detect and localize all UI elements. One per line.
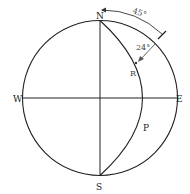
label-north: N [96, 11, 104, 21]
stereonet-diagram: N S E W P R 45° 24° [0, 0, 190, 194]
label-east: E [176, 94, 183, 104]
label-west: W [13, 94, 23, 104]
point-r-marker [135, 62, 137, 64]
strike-tick [158, 31, 166, 39]
label-point-r: R [130, 69, 137, 78]
label-plane-p: P [143, 123, 149, 133]
label-strike-angle: 45° [131, 6, 147, 19]
label-south: S [96, 182, 102, 192]
label-pitch-angle: 24° [136, 43, 150, 52]
